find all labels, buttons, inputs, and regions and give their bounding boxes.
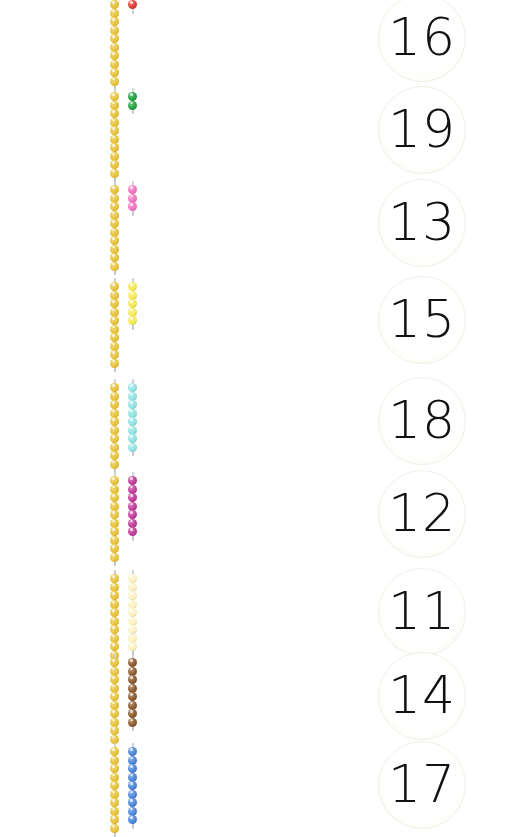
bead	[110, 726, 119, 735]
bead	[110, 160, 119, 169]
golden-ten-bar	[108, 88, 121, 182]
purple-unit-bar	[126, 472, 139, 541]
bead	[128, 510, 137, 519]
bead	[110, 781, 119, 790]
worksheet-row: 14	[0, 652, 532, 746]
bead	[110, 608, 119, 617]
bead-bar-group[interactable]	[104, 276, 164, 370]
bead	[128, 443, 137, 452]
bead	[128, 658, 137, 667]
bead-stack	[126, 282, 139, 325]
bead	[110, 350, 119, 359]
bead-bar-group[interactable]	[104, 568, 164, 662]
bead	[128, 476, 137, 485]
bead	[110, 316, 119, 325]
cream-unit-bar	[126, 570, 139, 656]
bead	[128, 400, 137, 409]
golden-ten-bar	[108, 743, 121, 837]
bead	[110, 764, 119, 773]
number-circle[interactable]: 17	[378, 741, 466, 829]
bead	[110, 109, 119, 118]
worksheet-row: 13	[0, 179, 532, 273]
bead	[110, 798, 119, 807]
bead	[110, 591, 119, 600]
bead	[128, 591, 137, 600]
number-circle[interactable]: 12	[378, 470, 466, 558]
bead	[110, 359, 119, 368]
bead	[110, 675, 119, 684]
bead	[110, 824, 119, 833]
bead	[128, 747, 137, 756]
golden-ten-bar	[108, 654, 121, 748]
bead	[110, 383, 119, 392]
number-circle[interactable]: 11	[378, 568, 466, 656]
bead	[110, 0, 119, 9]
worksheet-row: 18	[0, 377, 532, 471]
bead	[110, 544, 119, 553]
bead	[128, 527, 137, 536]
pink-unit-bar	[126, 181, 139, 216]
bead	[110, 510, 119, 519]
golden-ten-bar	[108, 472, 121, 566]
number-label: 18	[388, 394, 456, 446]
number-label: 13	[388, 196, 456, 248]
bead	[110, 17, 119, 26]
number-circle[interactable]: 14	[378, 652, 466, 740]
number-circle[interactable]: 16	[378, 0, 466, 82]
bead-stack	[108, 185, 121, 270]
bead-stack	[126, 476, 139, 536]
golden-ten-bar	[108, 278, 121, 372]
bead	[110, 574, 119, 583]
bead	[110, 709, 119, 718]
bead	[110, 219, 119, 228]
green-unit-bar	[126, 88, 139, 114]
number-circle[interactable]: 18	[378, 377, 466, 465]
bead-bar-group[interactable]	[104, 470, 164, 564]
bead	[110, 493, 119, 502]
bead	[110, 253, 119, 262]
worksheet-row: 17	[0, 741, 532, 835]
bead	[110, 299, 119, 308]
number-label: 14	[388, 669, 456, 721]
bead-stack	[108, 0, 121, 85]
bead-stack	[108, 574, 121, 659]
bead-stack	[108, 476, 121, 561]
bead-bar-group[interactable]	[104, 0, 164, 88]
bead	[128, 625, 137, 634]
bead-bar-group[interactable]	[104, 86, 164, 180]
bead	[110, 476, 119, 485]
bead	[128, 781, 137, 790]
worksheet-row: 19	[0, 86, 532, 180]
bead	[128, 185, 137, 194]
brown-unit-bar	[126, 654, 139, 731]
bead	[110, 417, 119, 426]
bead-bar-group[interactable]	[104, 179, 164, 273]
bead	[110, 692, 119, 701]
bead-stack	[126, 92, 139, 109]
bead-bar-group[interactable]	[104, 741, 164, 835]
bead-stack	[108, 92, 121, 177]
bead-stack	[108, 747, 121, 832]
bead	[128, 815, 137, 824]
bead	[110, 185, 119, 194]
number-circle[interactable]: 13	[378, 179, 466, 267]
blue-unit-bar	[126, 743, 139, 829]
bead	[110, 460, 119, 469]
bead-bar-group[interactable]	[104, 377, 164, 471]
number-label: 19	[388, 103, 456, 155]
number-circle[interactable]: 19	[378, 86, 466, 174]
bead	[128, 101, 137, 110]
bead	[110, 527, 119, 536]
bead	[110, 34, 119, 43]
bead-stack	[126, 658, 139, 726]
bead	[110, 333, 119, 342]
bead	[128, 798, 137, 807]
bead	[128, 0, 137, 9]
bead-stack	[108, 282, 121, 367]
bead-bar-group[interactable]	[104, 652, 164, 746]
number-circle[interactable]: 15	[378, 276, 466, 364]
bead-stack	[126, 383, 139, 451]
bead	[128, 692, 137, 701]
golden-ten-bar	[108, 379, 121, 473]
